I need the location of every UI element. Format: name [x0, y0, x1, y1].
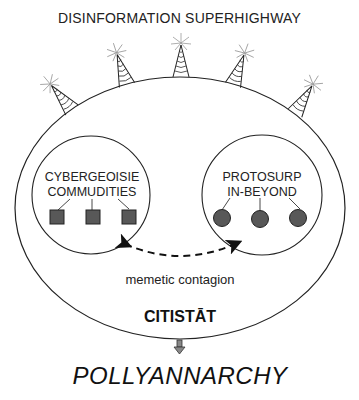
- left-group-label-line1: CYBERGEOISIE: [40, 170, 144, 185]
- down-arrow-icon: [174, 340, 185, 354]
- link-label: memetic contagion: [100, 272, 260, 287]
- outcome-label: POLLYANNARCHY: [20, 362, 340, 390]
- left-group-label: CYBERGEOISIE COMMUDITIES: [40, 170, 144, 200]
- left-group-markers: [50, 210, 136, 224]
- left-group-label-line2: COMMUDITIES: [40, 185, 144, 200]
- right-group-label-line2: IN-BEYOND: [210, 185, 314, 200]
- citistat-container: [15, 77, 345, 339]
- memetic-contagion-arrow: [125, 244, 235, 256]
- square-marker: [122, 210, 136, 224]
- right-group-markers: [214, 210, 307, 228]
- diagram-canvas: [0, 0, 359, 400]
- circle-marker: [290, 210, 307, 227]
- circle-marker: [214, 210, 231, 227]
- square-marker: [86, 210, 100, 224]
- container-label: CITISTĀT: [100, 308, 260, 326]
- square-marker: [50, 210, 64, 224]
- radio-tower-icon: [287, 70, 327, 118]
- circle-marker: [252, 211, 269, 228]
- radio-tower-icon: [36, 70, 80, 117]
- radio-tower-icon: [171, 33, 191, 77]
- radio-tower-icon: [104, 40, 137, 88]
- right-group-label: PROTOSURP IN-BEYOND: [210, 170, 314, 200]
- radio-tower-icon: [224, 40, 258, 88]
- right-group-label-line1: PROTOSURP: [210, 170, 314, 185]
